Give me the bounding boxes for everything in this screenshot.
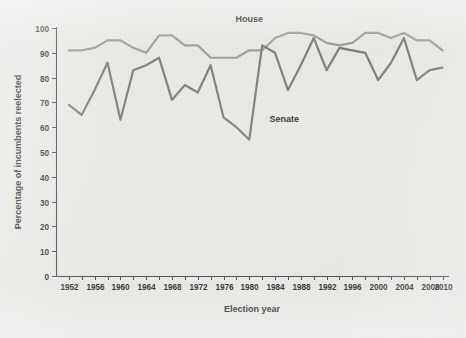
y-axis-ticks (52, 29, 56, 277)
senate-series-line (69, 38, 443, 140)
y-tick-label: 80 (40, 75, 50, 84)
x-tick-label: 1972 (189, 283, 208, 292)
y-tick-label: 60 (40, 124, 50, 133)
x-tick-label: 1992 (318, 283, 337, 292)
x-tick-label: 2000 (369, 283, 388, 292)
chart-figure: 0102030405060708090100 19521956196019641… (0, 0, 466, 338)
x-tick-label: 1964 (137, 283, 156, 292)
x-tick-label: 1952 (60, 283, 79, 292)
house-series-line (69, 33, 443, 58)
y-tick-label: 40 (40, 174, 50, 183)
x-tick-label: 1960 (111, 283, 130, 292)
y-tick-label: 90 (40, 50, 50, 59)
y-tick-label: 0 (44, 273, 49, 282)
x-tick-label: 2010 (434, 283, 453, 292)
y-tick-label: 100 (35, 25, 49, 34)
x-tick-label: 1996 (343, 283, 362, 292)
x-tick-label: 2004 (395, 283, 414, 292)
y-axis-tick-labels: 0102030405060708090100 (35, 25, 49, 282)
y-axis-title: Percentage of incumbents reelected (13, 75, 23, 230)
y-tick-label: 70 (40, 99, 50, 108)
x-tick-label: 1956 (86, 283, 105, 292)
senate-series-label: Senate (269, 114, 299, 124)
y-tick-label: 10 (40, 248, 50, 257)
x-tick-label: 1984 (266, 283, 285, 292)
x-axis-title: Election year (224, 304, 281, 314)
x-tick-label: 1988 (292, 283, 311, 292)
x-tick-label: 1980 (240, 283, 259, 292)
x-tick-label: 1976 (215, 283, 234, 292)
x-tick-label: 1968 (163, 283, 182, 292)
line-chart-canvas: 0102030405060708090100 19521956196019641… (0, 0, 466, 338)
x-axis-tick-labels: 1952195619601964196819721976198019841988… (60, 283, 453, 292)
house-series-label: House (236, 14, 264, 24)
y-tick-label: 20 (40, 223, 50, 232)
y-tick-label: 50 (40, 149, 50, 158)
y-tick-label: 30 (40, 199, 50, 208)
